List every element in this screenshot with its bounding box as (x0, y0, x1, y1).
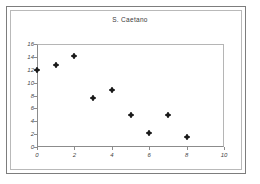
x-axis-tick-mark (224, 147, 225, 150)
data-point (110, 88, 114, 92)
x-axis-tick-label: 6 (148, 152, 151, 158)
x-axis-tick-label: 10 (221, 152, 228, 158)
chart-screenshot: S. Caetano 0246810121416 0246810 (0, 0, 260, 184)
data-point (54, 63, 58, 67)
x-axis-tick-label: 0 (35, 152, 38, 158)
x-axis-tick-label: 4 (110, 152, 113, 158)
x-axis-tick-label: 2 (73, 152, 76, 158)
x-axis-tick-mark (74, 147, 75, 150)
x-axis-tick-mark (149, 147, 150, 150)
x-axis-tick-mark (37, 147, 38, 150)
data-point (35, 68, 39, 72)
data-point (185, 135, 189, 139)
x-axis-tick-mark (187, 147, 188, 150)
x-axis-tick-mark (112, 147, 113, 150)
data-point (166, 113, 170, 117)
data-point (129, 113, 133, 117)
data-point (147, 131, 151, 135)
x-axis-tick-labels: 0246810 (0, 0, 260, 184)
x-axis-tick-label: 8 (185, 152, 188, 158)
